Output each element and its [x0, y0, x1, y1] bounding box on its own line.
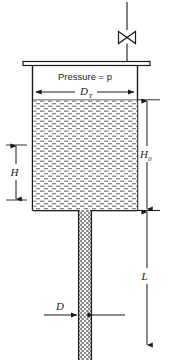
dimension-tank-diameter: D T: [36, 85, 134, 100]
liquid-body: [33, 100, 137, 211]
tank-top-plate: [23, 62, 150, 66]
dimension-H: H: [6, 145, 27, 200]
label-H0-subscript: 0: [148, 155, 152, 163]
label-H: H: [10, 166, 20, 178]
figure-root: Pressure = p D T H 0 H L D: [0, 0, 177, 360]
pressure-supply-group: [119, 2, 136, 62]
label-DT: D: [79, 85, 88, 97]
label-D: D: [55, 300, 64, 312]
dimension-L: L: [133, 211, 160, 346]
discharge-pipe: [79, 210, 92, 360]
dimension-H0: H 0: [137, 100, 160, 211]
valve-symbol: [119, 32, 136, 44]
pressure-label: Pressure = p: [58, 71, 112, 82]
label-L: L: [141, 270, 148, 282]
tank-pipe-schematic: Pressure = p D T H 0 H L D: [0, 0, 177, 360]
